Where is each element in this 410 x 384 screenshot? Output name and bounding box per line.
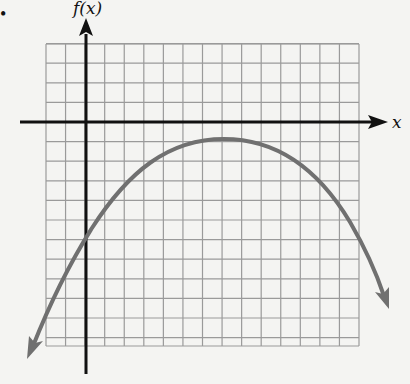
y-axis-label: f(x) xyxy=(71,0,102,18)
y-axis-arrow-icon xyxy=(79,18,93,36)
graph: • x f(x) xyxy=(0,0,410,384)
grid xyxy=(46,44,359,346)
x-axis-label: x xyxy=(392,112,402,132)
bullet-marker: • xyxy=(0,4,6,24)
